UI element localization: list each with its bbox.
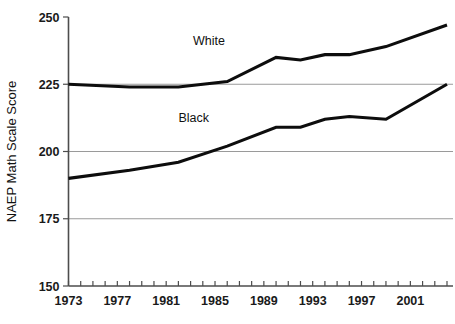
y-axis-title: NAEP Math Scale Score xyxy=(4,81,19,222)
x-tick-label-1985: 1985 xyxy=(201,294,229,308)
y-tick-label-250: 250 xyxy=(39,11,60,25)
naep-math-scale-score-line-chart: 1501752002252501973197719811985198919931… xyxy=(0,0,455,324)
x-tick-label-1993: 1993 xyxy=(299,294,327,308)
series-line-black xyxy=(69,84,448,178)
x-tick-label-1997: 1997 xyxy=(348,294,376,308)
y-tick-label-200: 200 xyxy=(39,145,60,159)
y-tick-label-150: 150 xyxy=(39,280,60,294)
chart-canvas: 1501752002252501973197719811985198919931… xyxy=(0,0,455,324)
series-label-white: White xyxy=(193,34,225,48)
x-tick-label-1989: 1989 xyxy=(250,294,278,308)
x-tick-label-1973: 1973 xyxy=(55,294,83,308)
x-tick-label-2001: 2001 xyxy=(396,294,424,308)
y-tick-label-225: 225 xyxy=(39,78,60,92)
y-tick-label-175: 175 xyxy=(39,212,60,226)
x-tick-label-1977: 1977 xyxy=(103,294,131,308)
series-line-white xyxy=(69,25,448,87)
series-label-black: Black xyxy=(178,111,209,125)
x-tick-label-1981: 1981 xyxy=(152,294,180,308)
